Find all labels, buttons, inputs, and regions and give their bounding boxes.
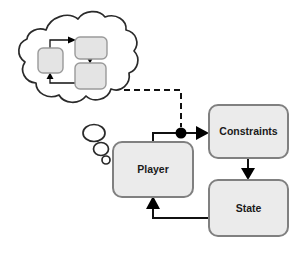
node-constraints[interactable]: Constraints [209, 105, 288, 158]
thought-bubble-medium [94, 143, 109, 156]
node-constraints-label: Constraints [219, 125, 278, 137]
node-state[interactable]: State [209, 180, 288, 236]
mini-node-top-right [75, 37, 107, 59]
edge-state-to-player [146, 196, 209, 218]
dashed-connector [124, 90, 181, 127]
node-player[interactable]: Player [113, 142, 193, 197]
thought-bubble-small [102, 156, 110, 164]
thought-bubble-group [83, 125, 110, 165]
node-state-label: State [236, 202, 262, 214]
arrow-head-icon [241, 168, 255, 180]
signal-junction-dot [176, 128, 187, 139]
mini-node-bottom-right [75, 63, 106, 89]
mini-node-left [38, 48, 63, 73]
diagram-svg: Player Constraints State [0, 0, 300, 253]
thought-bubble-large [83, 125, 105, 142]
node-player-label: Player [137, 163, 169, 175]
diagram-canvas: Player Constraints State [0, 0, 300, 253]
edge-constraints-to-state [241, 158, 255, 180]
edge-player-to-constraints [153, 126, 209, 143]
arrow-head-icon [196, 126, 209, 140]
edge-thought-to-junction [124, 90, 181, 127]
